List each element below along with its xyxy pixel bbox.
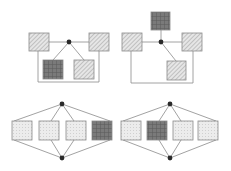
connection-line	[62, 140, 110, 158]
device-boxes	[12, 12, 218, 140]
connection-line	[170, 104, 181, 121]
connection-line	[62, 104, 74, 121]
connection-line	[161, 42, 176, 61]
device-box-b1-light-dotted	[121, 121, 141, 140]
device-box-b1-light-dotted	[12, 121, 32, 140]
connection-line	[159, 140, 170, 158]
connection-line	[14, 140, 62, 158]
hub-node-dot	[159, 40, 164, 45]
connection-line	[14, 104, 62, 121]
connection-line	[123, 140, 170, 158]
connection-line	[51, 140, 62, 158]
connection-line	[123, 104, 170, 121]
device-box-bottom-right-hatched	[74, 60, 94, 79]
hub-nodes	[60, 40, 173, 161]
device-box-bottom-hatched	[167, 61, 186, 80]
hub-node-dot	[60, 102, 65, 107]
connection-line	[170, 140, 216, 158]
device-box-b4-light-dotted	[198, 121, 218, 140]
diagram-bottom-left-nodes	[12, 121, 112, 140]
device-box-bottom-left-dark-grid	[43, 60, 63, 79]
connection-line	[53, 42, 69, 60]
device-box-right-hatched	[89, 33, 109, 51]
hub-node-dot	[60, 156, 65, 161]
device-box-b4-dark-grid	[92, 121, 112, 140]
device-box-b2-dark-grid	[147, 121, 167, 140]
device-box-b3-light-dotted	[173, 121, 193, 140]
network-topology-figure	[0, 0, 231, 171]
connection-line	[62, 140, 74, 158]
hub-node-dot	[67, 40, 72, 45]
hub-node-dot	[168, 156, 173, 161]
diagram-top-right-nodes	[122, 12, 202, 80]
connection-line	[62, 104, 110, 121]
connection-line	[51, 104, 62, 121]
device-box-left-hatched	[122, 33, 142, 51]
device-box-right-hatched	[182, 33, 202, 51]
connection-line	[170, 104, 216, 121]
connection-line	[159, 104, 170, 121]
device-box-b3-light-dotted	[66, 121, 86, 140]
diagram-bottom-right-nodes	[121, 121, 218, 140]
device-box-left-hatched	[29, 33, 49, 51]
device-box-b2-light-dotted	[39, 121, 59, 140]
device-box-top-dark-grid	[151, 12, 170, 30]
connection-line	[69, 42, 84, 60]
connection-line	[170, 140, 181, 158]
hub-node-dot	[168, 102, 173, 107]
